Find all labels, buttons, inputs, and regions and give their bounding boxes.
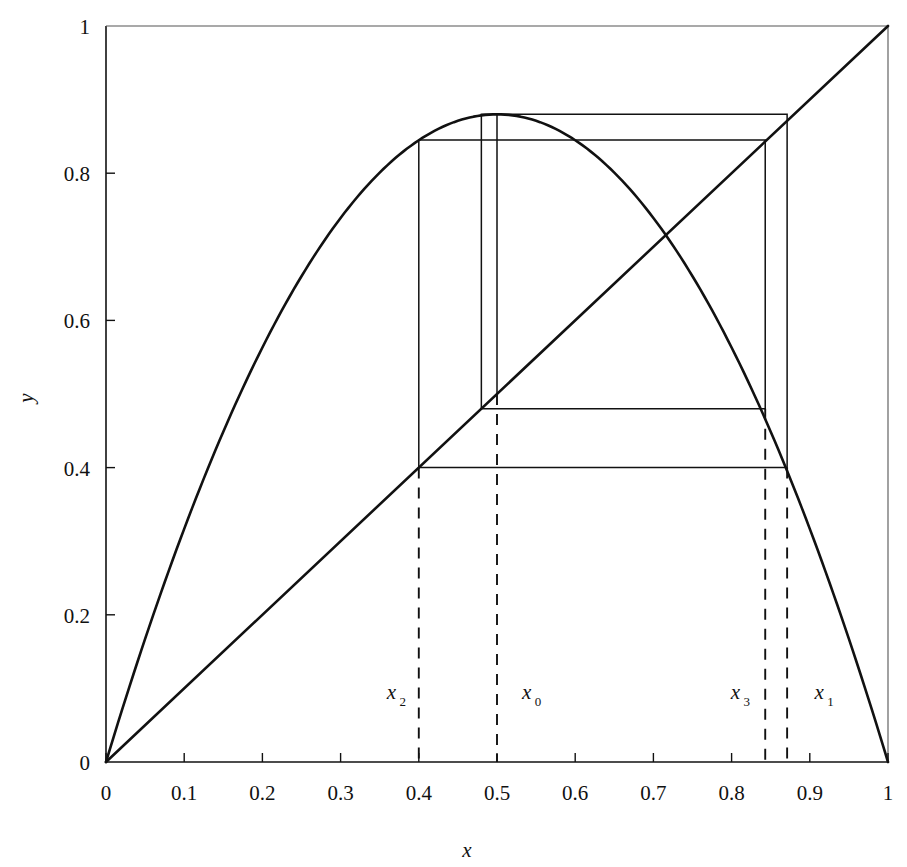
annotation-labels: x2x0x3x1 xyxy=(386,680,834,709)
annotation-x1: x1 xyxy=(814,680,834,709)
x-tick-label: 0.1 xyxy=(171,781,197,805)
y-axis-label: y xyxy=(14,393,38,405)
annotation-droplines xyxy=(419,394,787,762)
x-tick-label: 0.6 xyxy=(562,781,588,805)
plot-canvas: 00.10.20.30.40.50.60.70.80.91 00.20.40.6… xyxy=(0,0,907,867)
x-tick-label: 0.9 xyxy=(797,781,823,805)
x-axis-label: x xyxy=(461,838,472,862)
y-axis-tick-labels: 00.20.40.60.81 xyxy=(64,15,91,775)
y-axis-ticks xyxy=(106,173,115,615)
x-axis-tick-labels: 00.10.20.30.40.50.60.70.80.91 xyxy=(101,781,894,805)
annotation-subscript-x3: 3 xyxy=(744,694,751,709)
annotation-base-x2: x xyxy=(386,680,397,704)
y-tick-label: 0.4 xyxy=(64,457,91,481)
x-tick-label: 1 xyxy=(883,781,894,805)
y-tick-label: 0.2 xyxy=(64,604,90,628)
annotation-base-x3: x xyxy=(730,680,741,704)
x-tick-label: 0.4 xyxy=(406,781,433,805)
x-tick-label: 0.5 xyxy=(484,781,510,805)
y-tick-label: 0.6 xyxy=(64,309,90,333)
cobweb-plot-figure: 00.10.20.30.40.50.60.70.80.91 00.20.40.6… xyxy=(0,0,907,867)
annotation-x2: x2 xyxy=(386,680,406,709)
annotation-subscript-x0: 0 xyxy=(535,694,542,709)
y-tick-label: 0.8 xyxy=(64,162,90,186)
y-tick-label: 0 xyxy=(80,751,91,775)
annotation-base-x0: x xyxy=(521,680,532,704)
x-tick-label: 0.3 xyxy=(327,781,353,805)
x-tick-label: 0.2 xyxy=(249,781,275,805)
annotation-x0: x0 xyxy=(521,680,541,709)
annotation-subscript-x1: 1 xyxy=(827,694,834,709)
annotation-subscript-x2: 2 xyxy=(399,694,406,709)
annotation-x3: x3 xyxy=(730,680,750,709)
y-tick-label: 1 xyxy=(80,15,91,39)
x-tick-label: 0 xyxy=(101,781,112,805)
x-tick-label: 0.7 xyxy=(640,781,666,805)
x-tick-label: 0.8 xyxy=(718,781,744,805)
annotation-base-x1: x xyxy=(814,680,825,704)
